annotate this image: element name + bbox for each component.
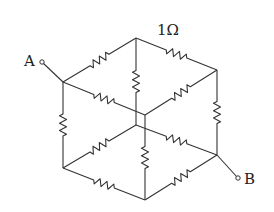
terminal-a-node bbox=[40, 60, 44, 64]
resistor-edge bbox=[63, 125, 136, 168]
resistor-edge bbox=[136, 125, 217, 155]
resistor-edge bbox=[63, 168, 145, 200]
terminal-a-label: A bbox=[23, 52, 35, 70]
resistor-edge bbox=[136, 38, 217, 70]
resistor-network bbox=[60, 38, 221, 200]
resistor-cube-diagram: A B 1Ω bbox=[0, 0, 274, 212]
terminal-b-lead bbox=[217, 155, 240, 180]
terminal-a-lead bbox=[40, 60, 63, 82]
resistor-edge bbox=[60, 82, 67, 168]
terminal-b-label: B bbox=[244, 170, 255, 188]
resistor-edge bbox=[63, 38, 136, 82]
resistor-edge bbox=[145, 70, 217, 115]
resistor-edge bbox=[145, 155, 217, 200]
resistor-edge bbox=[214, 70, 221, 155]
resistance-label: 1Ω bbox=[157, 21, 179, 39]
terminal-b-node bbox=[236, 176, 240, 180]
